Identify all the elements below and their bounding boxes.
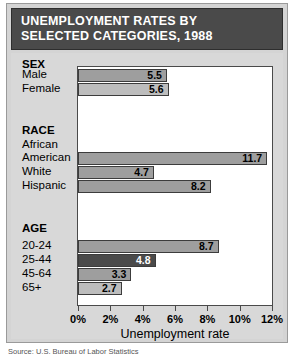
- chart-title-line-1: UNEMPLOYMENT RATES BY: [21, 14, 282, 29]
- bar-value-label: 4.7: [134, 167, 153, 178]
- row-label: White: [22, 165, 51, 178]
- row-label: Hispanic: [22, 179, 66, 192]
- bar: 3.3: [78, 268, 131, 281]
- chart-title-bar: UNEMPLOYMENT RATES BY SELECTED CATEGORIE…: [11, 8, 283, 50]
- bar-value-label: 8.2: [191, 181, 210, 192]
- row-label: Male: [22, 68, 47, 81]
- bar: 8.2: [78, 180, 211, 193]
- x-axis-tick: [143, 306, 144, 311]
- bar: 5.5: [78, 69, 167, 82]
- x-axis-tick: [272, 306, 273, 311]
- x-axis-tick: [175, 306, 176, 311]
- x-axis-tick: [240, 306, 241, 311]
- bar-value-label: 11.7: [242, 153, 266, 164]
- chart-figure: UNEMPLOYMENT RATES BY SELECTED CATEGORIE…: [0, 0, 296, 358]
- row-label: 20-24: [22, 239, 51, 252]
- bar-value-label: 8.7: [199, 241, 218, 252]
- x-axis-tick: [78, 306, 79, 311]
- row-label: 25-44: [22, 253, 51, 266]
- row-label: 45-64: [22, 267, 51, 280]
- bar-value-label: 2.7: [102, 283, 121, 294]
- bar-value-label: 5.6: [149, 84, 168, 95]
- x-axis-tick: [207, 306, 208, 311]
- bar: 5.6: [78, 83, 169, 96]
- row-label: Female: [22, 82, 60, 95]
- bar: 2.7: [78, 282, 122, 295]
- bar: 11.7: [78, 152, 267, 165]
- x-axis-tick-label: 12%: [252, 313, 292, 325]
- bar-value-label: 4.8: [136, 255, 155, 266]
- section-heading-age: AGE: [22, 222, 47, 234]
- x-axis-tick: [110, 306, 111, 311]
- bar: 8.7: [78, 240, 219, 253]
- chart-title-line-2: SELECTED CATEGORIES, 1988: [21, 29, 282, 44]
- bar: 4.7: [78, 166, 154, 179]
- row-label: AfricanAmerican: [22, 138, 71, 164]
- source-caption: Source: U.S. Bureau of Labor Statistics: [8, 347, 296, 356]
- bar-value-label: 3.3: [112, 269, 131, 280]
- x-axis-title: Unemployment rate: [77, 327, 273, 341]
- bar-value-label: 5.5: [147, 70, 166, 81]
- bar: 4.8: [78, 254, 156, 267]
- section-heading-race: RACE: [22, 124, 55, 136]
- row-label: 65+: [22, 281, 42, 294]
